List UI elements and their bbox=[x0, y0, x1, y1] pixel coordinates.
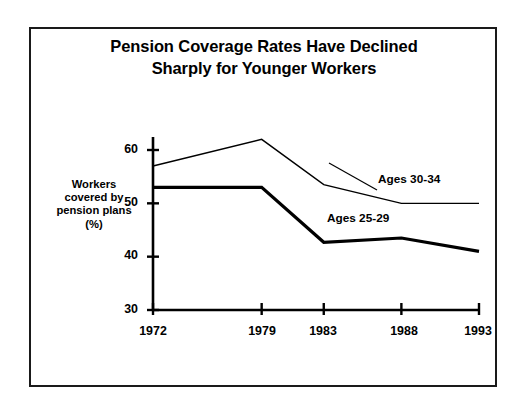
line-series-ages-25-29 bbox=[153, 187, 479, 251]
line-series-ages-30-34 bbox=[153, 139, 479, 203]
plot-area bbox=[29, 27, 497, 387]
leader-line-ages-30-34 bbox=[329, 163, 377, 190]
figure-container: Pension Coverage Rates Have Declined Sha… bbox=[0, 0, 526, 411]
